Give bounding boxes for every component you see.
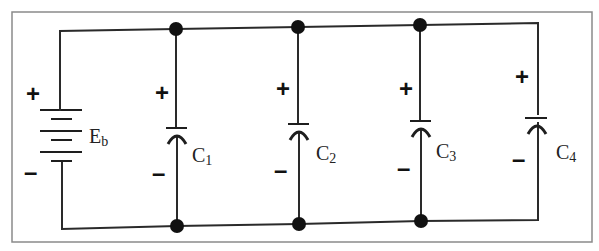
c1-label: C1 <box>192 144 212 168</box>
junction-node-bottom-2 <box>292 217 306 231</box>
battery-minus-sign: – <box>24 158 37 185</box>
c3-label: C3 <box>436 140 456 164</box>
capacitor-c3: + – C3 <box>397 25 456 221</box>
junction-node-top-1 <box>169 22 183 36</box>
c4-plus-sign: + <box>515 63 529 90</box>
c4-label: C4 <box>556 141 576 165</box>
c3-minus-sign: – <box>397 154 410 181</box>
c2-label: C2 <box>316 142 336 166</box>
battery-plus-sign: + <box>26 80 40 107</box>
c1-plus-sign: + <box>155 79 169 106</box>
c3-plus-sign: + <box>399 75 413 102</box>
junction-node-top-3 <box>413 18 427 32</box>
capacitor-c4: + – C4 <box>512 63 576 172</box>
battery-eb: + – Eb <box>24 80 108 185</box>
c2-plus-sign: + <box>276 75 290 102</box>
capacitor-c1: + – C1 <box>152 29 212 226</box>
capacitor-c2: + – C2 <box>274 27 336 224</box>
circuit-diagram: + – Eb + – C1 + – C2 + – C3 + – C4 <box>0 0 599 251</box>
junction-node-top-2 <box>291 20 305 34</box>
junction-node-bottom-3 <box>414 214 428 228</box>
battery-label: Eb <box>89 125 108 149</box>
junction-node-bottom-1 <box>170 219 184 233</box>
c4-minus-sign: – <box>512 145 525 172</box>
c1-minus-sign: – <box>152 159 165 186</box>
c2-minus-sign: – <box>274 156 287 183</box>
